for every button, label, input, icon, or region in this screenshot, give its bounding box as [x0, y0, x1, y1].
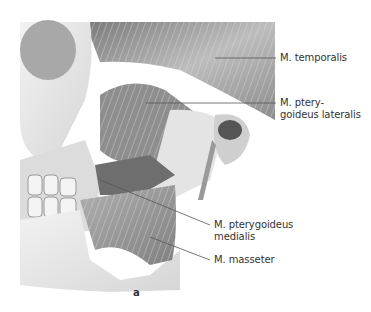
anatomy-illustration — [0, 0, 371, 312]
panel-letter: a — [133, 287, 140, 298]
label-lateral-pterygoid: M. ptery- goideus lateralis — [280, 97, 361, 121]
label-masseter: M. masseter — [214, 254, 275, 266]
label-temporalis: M. temporalis — [280, 52, 347, 64]
label-medial-pterygoid: M. pterygoideus medialis — [214, 219, 293, 243]
